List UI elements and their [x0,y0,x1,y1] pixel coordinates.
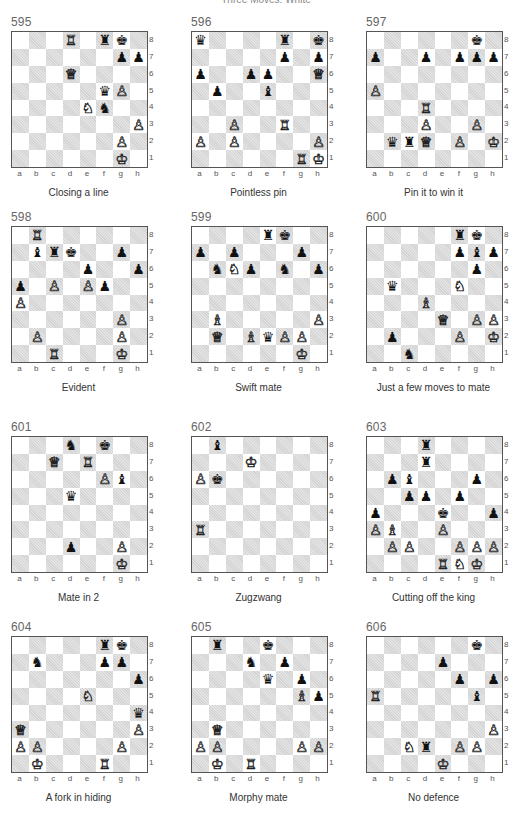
file-label: c [45,774,62,783]
file-label: e [79,364,96,373]
rank-label: 2 [504,327,514,344]
square-h1 [485,150,502,167]
white-pawn-icon: ♙ [194,135,207,149]
square-h4 [310,505,327,522]
square-b3 [29,521,46,538]
black-rook-icon: ♜ [211,638,224,652]
square-b2 [29,133,46,150]
rank-label: 5 [149,82,159,99]
square-a1 [192,345,209,362]
file-label: c [225,169,242,178]
black-knight-icon: ♞ [65,438,78,452]
file-label: f [275,364,292,373]
square-e2 [435,328,452,345]
chess-board: ♚♟♟♟♟♟♙♖♙♙♛♜♕♙♔ [366,31,503,168]
square-a4 [12,100,29,117]
file-label: b [28,574,45,583]
square-f7 [451,454,468,471]
black-king-icon: ♚ [211,472,224,486]
white-king-icon: ♔ [115,557,128,571]
square-a1 [367,555,384,572]
square-b6 [384,671,401,688]
square-e2: ♛ [260,328,277,345]
square-h8 [485,227,502,244]
square-c5 [226,83,243,100]
rank-label: 6 [329,260,339,277]
square-a1 [12,555,29,572]
file-label: f [95,364,112,373]
square-c7: ♕ [46,454,63,471]
square-f6 [276,671,293,688]
square-b8: ♝ [209,437,226,454]
square-a5 [12,488,29,505]
square-e6: ♟ [260,66,277,83]
rank-label: 6 [149,65,159,82]
file-label: h [484,169,501,178]
square-d2: ♜ [418,738,435,755]
square-c8 [226,437,243,454]
square-h7 [485,654,502,671]
square-d8 [418,227,435,244]
square-b3 [384,116,401,133]
square-a2 [12,328,29,345]
white-knight-icon: ♘ [82,689,95,703]
white-pawn-icon: ♙ [295,740,308,754]
square-g7 [468,654,485,671]
rank-label: 2 [504,537,514,554]
square-h8 [485,637,502,654]
file-label: f [450,169,467,178]
square-b6: ♚ [209,471,226,488]
file-labels: abcdefgh [366,774,501,783]
square-a8 [12,637,29,654]
square-g2: ♙ [113,738,130,755]
square-f5: ♘ [451,278,468,295]
puzzle-caption: Just a few moves to mate [355,382,512,393]
black-rook-icon: ♜ [420,438,433,452]
white-pawn-icon: ♙ [115,540,128,554]
square-a7 [367,454,384,471]
square-f3 [451,311,468,328]
black-pawn-icon: ♟ [454,672,467,686]
square-d6 [63,671,80,688]
white-pawn-icon: ♙ [132,723,145,737]
square-f1 [276,345,293,362]
square-f6 [276,471,293,488]
square-c8 [401,32,418,49]
square-a1 [12,345,29,362]
square-b1 [384,555,401,572]
square-c1 [46,150,63,167]
square-b7 [209,49,226,66]
white-pawn-icon: ♙ [14,740,27,754]
square-h5 [485,83,502,100]
square-c2 [46,133,63,150]
square-d4: ♗ [418,295,435,312]
white-rook-icon: ♖ [82,455,95,469]
rank-label: 8 [504,636,514,653]
square-a6: ♟ [192,66,209,83]
square-d8 [63,227,80,244]
square-b5 [209,278,226,295]
square-b1 [384,345,401,362]
square-g5 [113,488,130,505]
square-h2 [130,738,147,755]
square-a5 [192,488,209,505]
puzzle-caption: Cutting off the king [355,592,512,603]
square-e8 [80,437,97,454]
square-h6: ♟ [310,261,327,278]
square-e1 [435,150,452,167]
file-label: d [242,169,259,178]
white-pawn-icon: ♙ [487,313,500,327]
square-d4 [418,505,435,522]
file-label: b [383,169,400,178]
white-knight-icon: ♘ [228,262,241,276]
square-b2 [209,133,226,150]
square-f1 [96,150,113,167]
square-c7: ♜ [46,244,63,261]
white-king-icon: ♔ [487,330,500,344]
file-label: a [366,574,383,583]
square-e2 [260,133,277,150]
square-d3 [418,721,435,738]
square-a3: ♖ [192,521,209,538]
square-c8 [226,32,243,49]
square-g3 [293,721,310,738]
